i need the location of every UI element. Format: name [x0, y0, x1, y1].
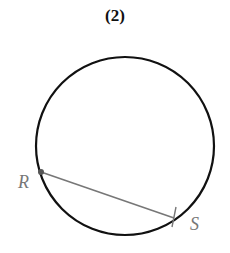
label-s: S	[190, 214, 199, 234]
circle	[36, 57, 214, 235]
point-r-dot	[38, 169, 44, 175]
label-r: R	[17, 172, 29, 192]
chord-rs	[41, 172, 174, 218]
circle-diagram: R S	[0, 0, 230, 253]
